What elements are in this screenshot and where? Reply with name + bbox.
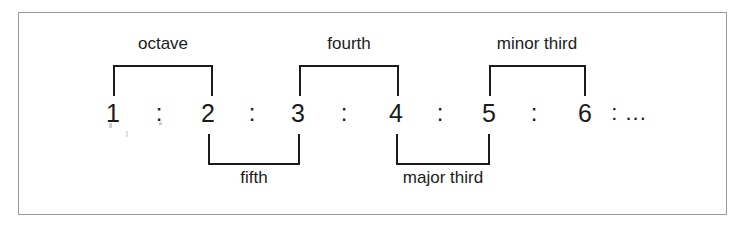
ratio-number-6: 6: [573, 98, 597, 128]
ratio-number-3: 3: [286, 98, 310, 128]
ratio-separator-3: :: [336, 98, 352, 128]
bracket-below-major-third: [396, 134, 490, 165]
figure-container: octave fourth minor third 1 : 2 : 3 : 4 …: [0, 0, 743, 230]
bracket-above-octave: [113, 65, 213, 96]
interval-label-major-third: major third: [382, 168, 504, 188]
scan-artifact-speck: [159, 122, 162, 125]
bracket-below-fifth: [208, 134, 300, 165]
scan-artifact-speck: [126, 131, 128, 137]
ratio-number-5: 5: [477, 98, 501, 128]
ratio-number-1: 1: [101, 98, 125, 128]
interval-label-minor-third: minor third: [476, 34, 598, 54]
ratio-separator-2: :: [244, 98, 260, 128]
scan-artifact-speck: [109, 123, 112, 128]
interval-label-fourth: fourth: [288, 34, 410, 54]
ratio-separator-4: :: [432, 98, 448, 128]
bracket-above-minor-third: [489, 65, 586, 96]
bracket-above-fourth: [299, 65, 399, 96]
ratio-number-4: 4: [384, 98, 408, 128]
interval-label-octave: octave: [102, 34, 224, 54]
ratio-separator-5: :: [526, 98, 542, 128]
ratio-continuation: : ...: [609, 98, 649, 128]
ratio-number-2: 2: [196, 98, 220, 128]
interval-label-fifth: fifth: [193, 168, 315, 188]
